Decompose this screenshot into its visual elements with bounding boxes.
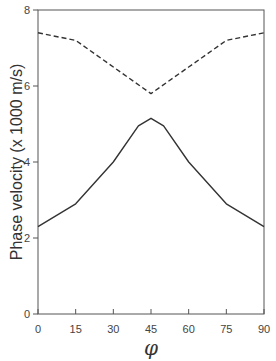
y-axis-title: Phase velocity (x 1000 m/s) — [8, 64, 25, 261]
x-tick-label: 30 — [107, 323, 119, 335]
solid-series-line — [38, 118, 264, 226]
x-tick-label: 60 — [183, 323, 195, 335]
x-axis: 0153045607590 — [35, 309, 270, 335]
phase-velocity-chart: 02468 0153045607590 Phase velocity (x 10… — [0, 0, 276, 361]
y-axis: 02468 — [24, 4, 38, 320]
plot-frame — [38, 10, 264, 314]
y-tick-label: 8 — [24, 4, 30, 16]
dashed-series-line — [38, 33, 264, 94]
x-tick-label: 90 — [258, 323, 270, 335]
series-layer — [38, 33, 264, 227]
x-tick-label: 15 — [70, 323, 82, 335]
x-tick-label: 75 — [220, 323, 232, 335]
plot-border — [38, 10, 264, 314]
x-tick-label: 0 — [35, 323, 41, 335]
x-axis-title: φ — [144, 336, 158, 360]
x-tick-label: 45 — [145, 323, 157, 335]
y-tick-label: 0 — [24, 308, 30, 320]
